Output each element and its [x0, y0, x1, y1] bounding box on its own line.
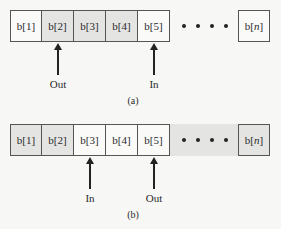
pointer-arrow-icon [57, 49, 59, 75]
array-cell: b[5] [137, 124, 170, 156]
figure-caption: (b) [127, 209, 139, 220]
array-cell: b[3] [73, 10, 106, 42]
ellipsis-dot [196, 138, 200, 142]
diagram-b: b[1]b[2]b[3]b[4]b[5]b[n]InOut(b) [0, 114, 281, 224]
array-cell: b[2] [41, 10, 74, 42]
ellipsis-dot [182, 24, 186, 28]
cell-label-suffix: ] [260, 134, 264, 146]
pointer-arrow-icon [89, 163, 91, 189]
array-cell-last: b[n] [238, 124, 270, 156]
array-cell: b[4] [105, 10, 138, 42]
cell-label-prefix: b[ [245, 20, 254, 32]
figure-caption: (a) [127, 95, 138, 106]
diagram-a: b[1]b[2]b[3]b[4]b[5]b[n]OutIn(a) [0, 0, 281, 110]
ellipsis-dot [182, 138, 186, 142]
array-cell: b[2] [41, 124, 74, 156]
pointer-arrow-icon [153, 163, 155, 189]
ellipsis-dot [224, 138, 228, 142]
array-cell: b[1] [10, 10, 42, 42]
pointer-label-in: In [85, 192, 94, 204]
ellipsis-dot [196, 24, 200, 28]
array-cell-last: b[n] [238, 10, 270, 42]
array-cell: b[1] [10, 124, 42, 156]
cell-label-prefix: b[ [245, 134, 254, 146]
pointer-arrow-icon [153, 49, 155, 75]
ellipsis-dot [224, 24, 228, 28]
ellipsis-dot [210, 24, 214, 28]
cell-label-suffix: ] [260, 20, 264, 32]
pointer-label-out: Out [146, 192, 163, 204]
pointer-label-in: In [149, 78, 158, 90]
array-cell: b[5] [137, 10, 170, 42]
array-cell: b[4] [105, 124, 138, 156]
ellipsis-dot [210, 138, 214, 142]
pointer-label-out: Out [50, 78, 67, 90]
array-cell: b[3] [73, 124, 106, 156]
